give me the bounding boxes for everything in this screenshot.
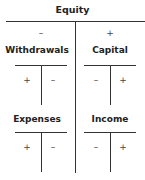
expenses-debit-sign: + — [21, 142, 33, 152]
expenses-t-vertical — [41, 132, 42, 172]
capital-equity-sign: + — [104, 28, 116, 38]
withdrawals-credit-sign: – — [47, 75, 59, 85]
capital-credit-sign: + — [117, 75, 129, 85]
equity-title: Equity — [0, 4, 145, 15]
capital-t-vertical — [110, 65, 111, 105]
income-credit-sign: + — [117, 142, 129, 152]
income-debit-sign: – — [90, 142, 102, 152]
withdrawals-debit-sign: + — [21, 75, 33, 85]
income-t-vertical — [110, 132, 111, 172]
equity-vertical-line — [75, 21, 76, 173]
capital-label: Capital — [78, 45, 142, 55]
expenses-credit-sign: – — [47, 142, 59, 152]
capital-debit-sign: – — [90, 75, 102, 85]
expenses-label: Expenses — [5, 114, 69, 124]
withdrawals-t-vertical — [41, 65, 42, 105]
income-label: Income — [78, 114, 142, 124]
withdrawals-label: Withdrawals — [5, 45, 69, 55]
withdrawals-equity-sign: – — [35, 28, 47, 38]
